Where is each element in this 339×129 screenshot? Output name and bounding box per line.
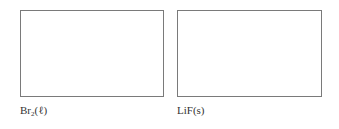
label-formula: Br (20, 104, 31, 116)
panel-lif-solid-box (177, 10, 322, 97)
panel-br2-liquid-label: Br2(ℓ) (20, 104, 47, 116)
panel-lif-solid-label: LiF(s) (177, 104, 205, 116)
label-state: (ℓ) (35, 104, 48, 116)
panel-br2-liquid-box (20, 10, 164, 97)
label-formula: LiF(s) (177, 104, 205, 116)
